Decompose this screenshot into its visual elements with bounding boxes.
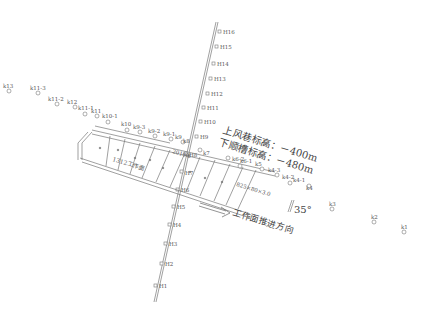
label-k7: k7: [203, 150, 210, 156]
label-k6-1: k6-1: [240, 158, 252, 164]
h-labels: H1 H2 H3 H4 H5 H6 H7 H8 H9 H10 H11 H12 H…: [159, 29, 235, 289]
label-h13: H13: [214, 76, 226, 82]
label-k9-2: k9-2: [148, 128, 160, 134]
label-k4-3: k4-3: [268, 167, 281, 173]
label-k11-3: k11-3: [30, 85, 46, 91]
label-k9-3: k9-3: [133, 124, 146, 130]
label-h15: H15: [220, 44, 232, 50]
label-k10-1: k10-1: [102, 113, 118, 119]
label-k10: k10: [121, 121, 132, 127]
label-k4: k4: [306, 185, 313, 191]
label-h11: H11: [207, 105, 219, 111]
face-dims: 825×80×3.0: [236, 181, 272, 197]
label-h2: H2: [165, 261, 173, 267]
label-h6: H6: [181, 187, 190, 193]
label-h3: H3: [169, 241, 178, 247]
label-h14: H14: [217, 61, 229, 67]
label-k12: k12: [67, 99, 77, 105]
label-k9: k9: [175, 134, 182, 140]
mining-survey-diagram: H1 H2 H3 H4 H5 H6 H7 H8 H9 H10 H11 H12 H…: [0, 0, 423, 316]
label-h1: H1: [159, 283, 167, 289]
advance-direction-arrow: [199, 203, 230, 217]
label-h5: H5: [177, 204, 186, 210]
label-h10: H10: [204, 119, 216, 125]
label-k9-1: k9-1: [163, 131, 175, 137]
label-k8: k8: [183, 138, 190, 144]
label-k2: k2: [371, 214, 378, 220]
label-k11-2: k11-2: [48, 96, 64, 102]
label-h9: H9: [200, 134, 209, 140]
survey-line-h: [154, 22, 218, 302]
label-k11: k11: [91, 108, 101, 114]
label-k1: k1: [401, 224, 408, 230]
label-h12: H12: [211, 91, 223, 97]
advance-direction-label: 工作面推进方向: [231, 206, 294, 235]
label-k4-1: k4-1: [293, 177, 305, 183]
label-k13: k13: [3, 83, 14, 89]
label-h16: H16: [223, 29, 235, 35]
label-h4: H4: [173, 222, 182, 228]
dip-angle-label: 35°: [294, 204, 312, 215]
label-k5: k5: [255, 161, 262, 167]
label-k3: k3: [329, 201, 336, 207]
